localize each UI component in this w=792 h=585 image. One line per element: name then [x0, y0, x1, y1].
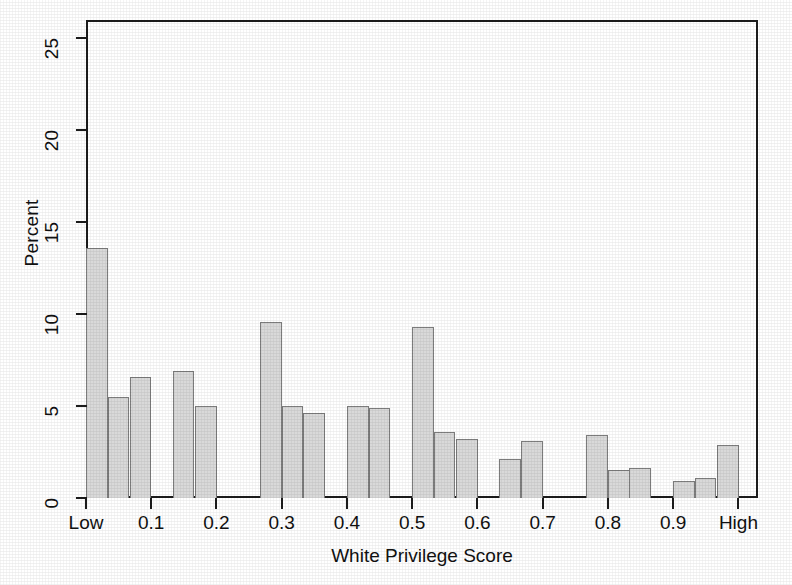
histogram-bar: [303, 413, 325, 498]
x-tick-mark: [476, 498, 478, 509]
histogram-figure: Percent 0510152025 Low0.10.20.30.40.50.6…: [0, 0, 792, 585]
histogram-bar: [717, 445, 739, 498]
histogram-bar: [499, 459, 521, 498]
y-tick-mark: [76, 221, 87, 223]
histogram-bar: [629, 468, 651, 498]
histogram-bar: [86, 248, 108, 498]
histogram-bar: [195, 406, 217, 498]
x-tick-mark: [607, 498, 609, 509]
x-tick-mark: [150, 498, 152, 509]
histogram-bar: [608, 470, 630, 498]
x-axis-label: White Privilege Score: [86, 545, 758, 567]
y-tick-mark: [76, 313, 87, 315]
histogram-bar: [347, 406, 369, 498]
histogram-bar: [130, 377, 152, 498]
y-tick-mark: [76, 37, 87, 39]
histogram-bar: [260, 322, 282, 498]
histogram-bar: [456, 439, 478, 498]
x-tick-mark: [542, 498, 544, 509]
histogram-bar: [173, 371, 195, 498]
x-tick-mark: [215, 498, 217, 509]
histogram-bar: [521, 441, 543, 498]
y-tick-mark: [76, 405, 87, 407]
histogram-bar: [108, 397, 130, 498]
histogram-bar: [586, 435, 608, 498]
histogram-bar: [673, 481, 695, 498]
histogram-bar: [434, 432, 456, 498]
histogram-bar: [695, 478, 717, 498]
histogram-bar: [369, 408, 391, 498]
histogram-bar: [412, 327, 434, 498]
histogram-bar: [282, 406, 304, 498]
x-tick-mark: [411, 498, 413, 509]
x-tick-label: High: [693, 512, 783, 534]
x-tick-mark: [672, 498, 674, 509]
x-tick-mark: [281, 498, 283, 509]
x-tick-mark: [85, 498, 87, 509]
y-tick-mark: [76, 129, 87, 131]
x-tick-mark: [737, 498, 739, 509]
x-tick-mark: [346, 498, 348, 509]
